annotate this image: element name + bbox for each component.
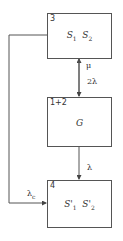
label-2lambda: 2λ — [87, 77, 97, 86]
label-lambda-c: λc — [27, 189, 35, 200]
label-mu: μ — [86, 61, 91, 70]
state-content: S1 S2 — [48, 30, 111, 42]
state-box-4: 4 S'1 S'2 — [47, 180, 112, 228]
state-content: G — [48, 118, 111, 128]
arrow-lambda-c — [9, 35, 47, 203]
label-lambda: λ — [87, 163, 92, 172]
state-box-3: 3 S1 S2 — [47, 13, 112, 59]
state-box-1-2: 1+2 G — [47, 97, 112, 147]
state-content: S'1 S'2 — [48, 199, 111, 211]
state-id: 4 — [50, 181, 55, 190]
state-id: 3 — [50, 14, 55, 23]
state-id: 1+2 — [50, 98, 67, 107]
